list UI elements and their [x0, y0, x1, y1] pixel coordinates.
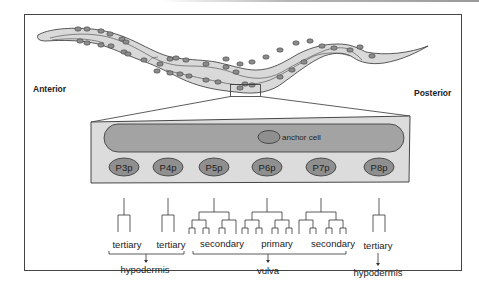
fate-label-p8p: tertiary: [363, 240, 392, 251]
anterior-label: Anterior: [33, 84, 67, 94]
gonad-band: [104, 124, 404, 152]
anchor-cell: [258, 131, 280, 144]
outcome-label: hypodermis: [120, 264, 169, 275]
outcome-brackets: hypodermisvulvahypodermis: [109, 251, 403, 278]
cell-label: P7p: [313, 162, 330, 173]
fate-label-p5p: secondary: [200, 238, 244, 249]
precursor-cell-p8p: P8p: [364, 158, 394, 176]
precursor-cell-p7p: P7p: [306, 158, 336, 176]
nucleus: [347, 48, 353, 52]
nucleus: [331, 46, 337, 50]
nucleus: [357, 45, 363, 49]
nucleus: [319, 44, 325, 48]
nucleus: [249, 83, 255, 87]
nucleus: [98, 43, 104, 47]
nucleus: [183, 58, 189, 62]
outcome-hypodermis-2: hypodermis: [353, 253, 402, 278]
nucleus: [203, 62, 209, 66]
nucleus: [75, 27, 81, 31]
nucleus: [223, 65, 229, 69]
lineage-trees: [118, 198, 385, 234]
cell-label: P8p: [371, 162, 388, 173]
nucleus: [307, 39, 313, 43]
fate-label-p6p: primary: [261, 238, 293, 249]
precursor-cell-p4p: P4p: [153, 158, 183, 176]
nucleus: [108, 44, 114, 48]
nucleus: [173, 56, 179, 60]
lineage-tree-p6p: [242, 198, 292, 234]
nucleus: [186, 74, 192, 78]
precursor-cell-p5p: P5p: [199, 158, 229, 176]
outcome-hypodermis-0: hypodermis: [109, 251, 184, 275]
lineage-tree-p4p: [162, 198, 174, 232]
fate-label-p4p: tertiary: [156, 239, 185, 250]
nucleus: [233, 70, 239, 74]
fate-labels: tertiarytertiarysecondaryprimarysecondar…: [112, 238, 392, 251]
lineage-tree-p8p: [373, 198, 385, 232]
nucleus: [369, 54, 375, 58]
nucleus: [167, 57, 173, 61]
nucleus: [167, 71, 173, 75]
nucleus: [293, 41, 299, 45]
nucleus: [125, 52, 131, 56]
cell-label: P5p: [206, 162, 223, 173]
outcome-label: hypodermis: [353, 267, 402, 278]
nucleus: [263, 55, 269, 59]
nucleus: [77, 39, 83, 43]
nucleus: [289, 68, 295, 72]
anchor-cell-label: anchor cell: [282, 133, 321, 142]
nucleus: [249, 60, 255, 64]
nucleus: [237, 62, 243, 66]
arrow-head-icon: [144, 260, 148, 263]
outcome-vulva-1: vulva: [193, 251, 346, 276]
nucleus: [157, 62, 163, 66]
nucleus: [141, 58, 147, 62]
nucleus: [107, 32, 113, 36]
lineage-tree-p7p: [299, 198, 346, 234]
nucleus: [215, 80, 221, 84]
fate-label-p7p: secondary: [311, 238, 355, 249]
worm-body: [37, 28, 428, 93]
posterior-label: Posterior: [414, 88, 452, 98]
nucleus: [203, 78, 209, 82]
nucleus: [98, 29, 104, 33]
vulval-development-diagram: Anterior Posterior anchor cell P3pP4pP5p…: [0, 0, 479, 295]
precursor-cell-p3p: P3p: [109, 158, 139, 176]
bracket: [109, 251, 184, 254]
cell-label: P3p: [116, 162, 133, 173]
bracket: [193, 251, 346, 254]
nucleus: [223, 57, 229, 61]
cell-label: P6p: [259, 162, 276, 173]
lineage-tree-p5p: [189, 198, 236, 234]
zoom-line-right: [261, 97, 411, 117]
nucleus: [154, 69, 160, 73]
outcome-label: vulva: [257, 265, 280, 276]
nucleus: [242, 82, 248, 86]
arrow-head-icon: [266, 260, 270, 263]
nucleus: [177, 72, 183, 76]
cell-label: P4p: [160, 162, 177, 173]
magnified-panel: anchor cell P3pP4pP5pP6pP7pP8p: [91, 116, 410, 183]
nucleus: [84, 41, 90, 45]
nucleus: [237, 86, 243, 90]
fate-label-p3p: tertiary: [112, 239, 141, 250]
nucleus: [301, 60, 307, 64]
arrow-head-icon: [376, 263, 380, 266]
lineage-tree-p3p: [118, 198, 130, 232]
nucleus: [277, 75, 283, 79]
zoom-line-left: [91, 97, 231, 123]
worm-illustration: [37, 27, 428, 97]
precursor-cell-p6p: P6p: [252, 158, 282, 176]
nucleus: [84, 27, 90, 31]
scan-artifact: [160, 0, 479, 2]
nucleus: [277, 48, 283, 52]
nucleus: [123, 40, 129, 44]
